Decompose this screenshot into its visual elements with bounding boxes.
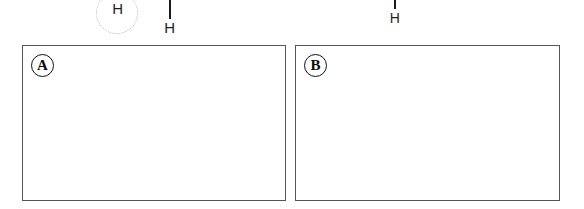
atom-label-hydrogen: H — [373, 11, 417, 25]
annotation-circled-hydrogen: H — [96, 0, 140, 36]
annotation-hydrogen-long-bond: H — [148, 0, 192, 35]
panel-a: A — [22, 45, 286, 201]
panel-label-a: A — [31, 54, 54, 77]
atom-label-hydrogen: H — [96, 1, 140, 16]
atom-label-hydrogen: H — [148, 20, 192, 35]
vertical-bond-icon — [169, 0, 171, 19]
panel-b: B — [295, 45, 560, 201]
circle-highlight-wrapper: H — [96, 0, 140, 36]
annotation-hydrogen-short-bond: H — [373, 0, 417, 25]
panel-label-b: B — [304, 54, 327, 77]
vertical-bond-icon — [394, 0, 396, 9]
figure-canvas: H H H A B — [0, 0, 584, 209]
